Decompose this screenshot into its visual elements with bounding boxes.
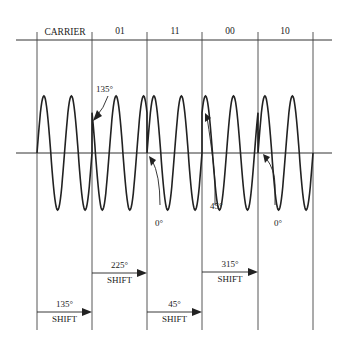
segment-boundaries bbox=[37, 32, 313, 330]
qpsk-diagram bbox=[0, 0, 345, 348]
header-label-carrier: CARRIER bbox=[40, 27, 90, 37]
shift-angle-135: 135° bbox=[37, 299, 92, 309]
header-label-10: 10 bbox=[260, 26, 310, 36]
shift-word-225: SHIFT bbox=[92, 275, 147, 285]
phase-label-45: 45° bbox=[210, 201, 223, 211]
phase-label-0-b: 0° bbox=[274, 218, 282, 228]
shift-word-315: SHIFT bbox=[202, 274, 258, 284]
arrowhead-icon bbox=[149, 156, 156, 166]
phase-label-0-a: 0° bbox=[155, 218, 163, 228]
shift-word-135: SHIFT bbox=[37, 314, 92, 324]
waveform bbox=[37, 96, 313, 210]
header-label-11: 11 bbox=[150, 26, 200, 36]
shift-angle-315: 315° bbox=[202, 259, 258, 269]
shift-angle-45: 45° bbox=[147, 299, 202, 309]
header-label-00: 00 bbox=[205, 26, 255, 36]
phase-label-135: 135° bbox=[96, 84, 113, 94]
shift-word-45: SHIFT bbox=[147, 314, 202, 324]
header-label-01: 01 bbox=[95, 26, 145, 36]
shift-angle-225: 225° bbox=[92, 260, 147, 270]
